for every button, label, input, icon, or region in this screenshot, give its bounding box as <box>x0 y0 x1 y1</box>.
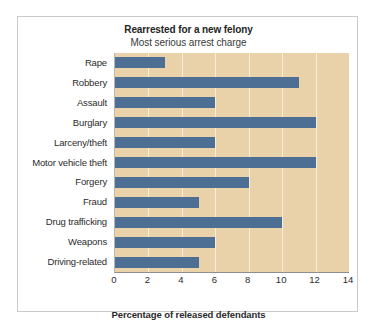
y-axis-label: Driving-related <box>47 252 107 272</box>
chart-title-block: Rearrested for a new felony Most serious… <box>18 23 359 49</box>
x-axis-title: Percentage of released defendants <box>18 309 359 320</box>
y-axis-label: Motor vehicle theft <box>32 153 107 173</box>
y-axis-label: Assault <box>77 93 107 113</box>
bar <box>115 177 249 188</box>
bar <box>115 97 215 108</box>
bar <box>115 157 316 168</box>
y-axis-label: Weapons <box>68 232 107 252</box>
x-axis-tick-label: 10 <box>269 274 293 285</box>
x-axis-tick-label: 6 <box>202 274 226 285</box>
y-axis-label: Fraud <box>83 192 107 212</box>
chart-figure: Rearrested for a new felony Most serious… <box>17 16 358 312</box>
x-axis-tick-label: 0 <box>102 274 126 285</box>
chart-title: Rearrested for a new felony <box>18 23 359 36</box>
bar <box>115 137 215 148</box>
bar <box>115 117 316 128</box>
y-axis-category-labels: RapeRobberyAssaultBurglaryLarceny/theftM… <box>18 53 111 272</box>
bar <box>115 77 299 88</box>
x-axis-tick-label: 14 <box>336 274 360 285</box>
bar <box>115 217 282 228</box>
y-axis-label: Robbery <box>72 73 107 93</box>
bar <box>115 197 199 208</box>
plot-area <box>114 53 349 273</box>
chart-subtitle: Most serious arrest charge <box>18 36 359 49</box>
x-axis-tick-label: 8 <box>236 274 260 285</box>
bar <box>115 257 199 268</box>
gridline <box>316 53 317 272</box>
y-axis-label: Drug trafficking <box>46 212 107 232</box>
gridline <box>349 53 350 272</box>
plot-wrapper: RapeRobberyAssaultBurglaryLarceny/theftM… <box>18 53 359 277</box>
y-axis-label: Larceny/theft <box>54 133 107 153</box>
x-axis-tick-labels: 02468101214 <box>114 274 348 288</box>
y-axis-label: Forgery <box>75 172 107 192</box>
bar <box>115 57 165 68</box>
bar <box>115 237 215 248</box>
y-axis-label: Burglary <box>73 113 107 133</box>
x-axis-tick-label: 2 <box>135 274 159 285</box>
x-axis-tick-label: 4 <box>169 274 193 285</box>
y-axis-label: Rape <box>85 53 107 73</box>
x-axis-tick-label: 12 <box>303 274 327 285</box>
